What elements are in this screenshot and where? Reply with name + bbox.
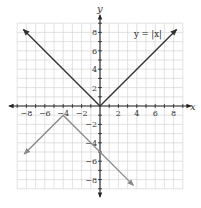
y-tick-label: −8 (85, 176, 97, 185)
y-axis-label: y (96, 3, 103, 14)
x-tick-label: −8 (21, 109, 33, 118)
equation-label: y = |x| (133, 29, 162, 40)
x-tick-label: 6 (153, 109, 158, 118)
y-tick-label: −2 (85, 120, 97, 129)
y-tick-label: 8 (92, 28, 97, 37)
y-tick-label: 2 (92, 84, 97, 93)
graph-canvas: −8−6−4−224688642−2−4−6−8 x y y = |x| (0, 0, 201, 208)
y-tick-label: 4 (92, 65, 97, 74)
x-tick-label: −2 (76, 109, 88, 118)
x-tick-label: −4 (57, 109, 69, 118)
x-tick-label: 8 (171, 109, 176, 118)
x-tick-label: 2 (116, 109, 121, 118)
x-tick-label: 4 (134, 109, 139, 118)
transformed-abs-graph (25, 115, 134, 185)
x-tick-label: −6 (39, 109, 51, 118)
y-tick-label: 6 (92, 47, 97, 56)
y-tick-label: −6 (85, 157, 97, 166)
x-axis-label: x (190, 101, 196, 112)
